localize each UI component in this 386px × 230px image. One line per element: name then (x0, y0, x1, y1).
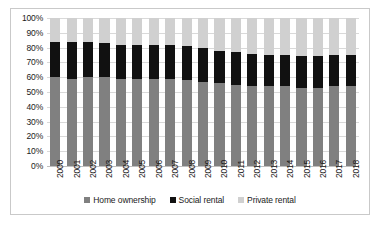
bar-column[interactable] (47, 18, 63, 166)
bar-segment[interactable] (149, 45, 159, 79)
y-axis-tick-label: 50% (27, 87, 43, 97)
bar-column[interactable] (80, 18, 96, 166)
bar-segment[interactable] (346, 86, 356, 166)
bar-segment[interactable] (280, 18, 290, 55)
legend-item[interactable]: Social rental (170, 195, 224, 205)
bar-segment[interactable] (99, 77, 109, 166)
bar-segment[interactable] (313, 56, 323, 87)
bar-column[interactable] (228, 18, 244, 166)
legend-label: Home ownership (93, 195, 155, 205)
bar-segment[interactable] (280, 55, 290, 86)
legend-item[interactable]: Private rental (238, 195, 296, 205)
bar-column[interactable] (326, 18, 342, 166)
bar-segment[interactable] (198, 48, 208, 82)
bar-segment[interactable] (346, 18, 356, 55)
bar-column[interactable] (293, 18, 309, 166)
bar-column[interactable] (310, 18, 326, 166)
bar-segment[interactable] (247, 54, 257, 87)
bar-segment[interactable] (231, 52, 241, 85)
bar-stack (346, 18, 356, 166)
bar-segment[interactable] (67, 79, 77, 166)
bar-column[interactable] (113, 18, 129, 166)
bar-segment[interactable] (231, 85, 241, 166)
bar-segment[interactable] (116, 18, 126, 45)
bar-segment[interactable] (313, 88, 323, 166)
bar-segment[interactable] (329, 86, 339, 166)
bar-segment[interactable] (280, 86, 290, 166)
bar-column[interactable] (260, 18, 276, 166)
chart-frame: 100%90%80%70%60%50%40%30%20%10%0% 200020… (10, 8, 370, 215)
bar-segment[interactable] (182, 80, 192, 166)
y-axis-tick-label: 20% (27, 131, 43, 141)
bar-stack (67, 18, 77, 166)
bar-segment[interactable] (264, 86, 274, 166)
bar-segment[interactable] (149, 79, 159, 166)
bar-segment[interactable] (214, 83, 224, 166)
bar-segment[interactable] (83, 77, 93, 166)
bar-segment[interactable] (214, 18, 224, 51)
bar-segment[interactable] (67, 18, 77, 42)
legend-label: Social rental (179, 195, 224, 205)
bar-segment[interactable] (313, 18, 323, 56)
bar-segment[interactable] (83, 42, 93, 78)
bar-segment[interactable] (329, 18, 339, 55)
bar-stack (329, 18, 339, 166)
bar-segment[interactable] (165, 18, 175, 45)
bar-column[interactable] (96, 18, 112, 166)
bar-stack (264, 18, 274, 166)
bar-stack (214, 18, 224, 166)
y-axis-tick-label: 80% (27, 43, 43, 53)
plot-area (47, 18, 359, 166)
bar-column[interactable] (277, 18, 293, 166)
bar-segment[interactable] (116, 79, 126, 166)
bar-segment[interactable] (165, 45, 175, 79)
bar-segment[interactable] (296, 18, 306, 56)
bar-segment[interactable] (132, 18, 142, 45)
bar-segment[interactable] (50, 42, 60, 78)
legend-item[interactable]: Home ownership (84, 195, 155, 205)
bar-column[interactable] (211, 18, 227, 166)
legend-swatch-icon (84, 197, 90, 203)
bar-segment[interactable] (83, 18, 93, 42)
bar-segment[interactable] (214, 51, 224, 84)
legend-label: Private rental (247, 195, 296, 205)
bar-segment[interactable] (99, 18, 109, 43)
bar-column[interactable] (63, 18, 79, 166)
bar-column[interactable] (343, 18, 359, 166)
bar-column[interactable] (146, 18, 162, 166)
bar-segment[interactable] (247, 86, 257, 166)
bar-stack (280, 18, 290, 166)
bar-segment[interactable] (182, 18, 192, 46)
bar-segment[interactable] (264, 18, 274, 55)
bar-segment[interactable] (50, 18, 60, 42)
bar-stack (198, 18, 208, 166)
bar-column[interactable] (162, 18, 178, 166)
bar-segment[interactable] (50, 77, 60, 166)
bar-segment[interactable] (296, 56, 306, 87)
bar-segment[interactable] (165, 79, 175, 166)
bar-segment[interactable] (231, 18, 241, 52)
bar-segment[interactable] (198, 82, 208, 166)
bar-segment[interactable] (329, 55, 339, 86)
bar-stack (313, 18, 323, 166)
bar-column[interactable] (129, 18, 145, 166)
bar-segment[interactable] (132, 45, 142, 79)
bar-column[interactable] (244, 18, 260, 166)
bar-segment[interactable] (149, 18, 159, 45)
bar-segment[interactable] (116, 45, 126, 79)
bar-column[interactable] (195, 18, 211, 166)
x-axis-tick-label: 2018 (351, 160, 361, 178)
bar-segment[interactable] (247, 18, 257, 54)
bar-segment[interactable] (67, 42, 77, 79)
bar-column[interactable] (178, 18, 194, 166)
bar-segment[interactable] (132, 79, 142, 166)
bar-segment[interactable] (99, 43, 109, 77)
bar-segment[interactable] (264, 55, 274, 86)
bar-segment[interactable] (296, 88, 306, 166)
bar-segment[interactable] (182, 46, 192, 80)
bar-segment[interactable] (198, 18, 208, 48)
bar-stack (116, 18, 126, 166)
bar-segment[interactable] (346, 55, 356, 86)
bar-stack (182, 18, 192, 166)
bar-stack (231, 18, 241, 166)
